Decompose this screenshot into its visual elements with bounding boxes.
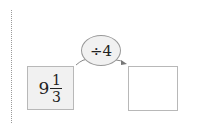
operation-label: ÷4 (90, 42, 112, 60)
fraction: 1 3 (50, 73, 62, 104)
denominator: 3 (52, 90, 61, 104)
mixed-number: 9 1 3 (39, 73, 63, 104)
operation-bubble: ÷4 (81, 35, 121, 66)
answer-box[interactable] (128, 66, 178, 111)
whole-part: 9 (39, 78, 50, 98)
numerator: 1 (52, 73, 61, 87)
start-value-box: 9 1 3 (27, 66, 74, 110)
